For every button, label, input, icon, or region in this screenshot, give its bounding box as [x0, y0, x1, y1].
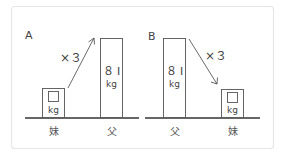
father-weight-value: ８ I [166, 65, 184, 78]
panel-b-label: B [148, 30, 156, 43]
panel-a-sister-box: kg [43, 89, 65, 118]
panel-a-left-person: 妹 [49, 126, 59, 137]
father-weight-value: ８ I [103, 65, 121, 78]
sister-unit: kg [227, 105, 238, 115]
panel-a-father-box: ８ I kg [101, 39, 123, 118]
unknown-answer-box [49, 92, 59, 102]
panel-b-right-person: 妹 [228, 126, 238, 137]
weight-comparison-diagram: A kg ８ I kg ×３ 妹 父 B ８ I kg [0, 0, 283, 157]
panel-b: B ８ I kg ×３ kg 父 妹 [145, 30, 260, 137]
panel-b-father-box: ８ I kg [164, 39, 186, 118]
father-unit: kg [106, 79, 117, 89]
father-unit: kg [169, 79, 180, 89]
sister-unit: kg [48, 105, 59, 115]
father-weight-box [101, 39, 123, 118]
panel-a-label: A [25, 29, 33, 42]
father-weight-box [164, 39, 186, 118]
panel-b-multiplier: ×３ [205, 49, 227, 63]
unknown-answer-box [228, 93, 238, 103]
panel-a-multiplier: ×３ [60, 51, 82, 65]
panel-a: A kg ８ I kg ×３ 妹 父 [25, 29, 139, 137]
panel-b-left-person: 父 [170, 126, 180, 137]
panel-a-right-person: 父 [107, 126, 117, 137]
panel-b-sister-box: kg [222, 90, 244, 118]
